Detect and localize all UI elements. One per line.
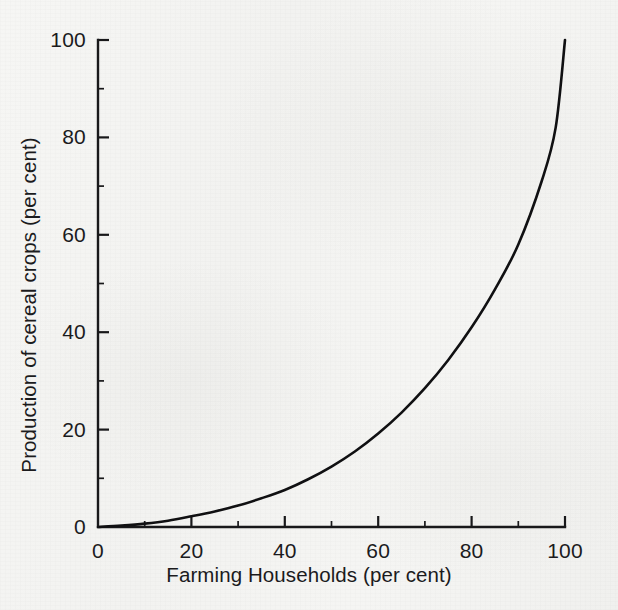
y-axis-title: Production of cereal crops (per cent) (14, 0, 44, 610)
y-axis-tick-label: 40 (62, 320, 86, 344)
x-axis-tick-label: 40 (273, 539, 297, 563)
y-axis-title-text: Production of cereal crops (per cent) (17, 137, 41, 472)
ticks-group (98, 89, 518, 527)
data-series-line-concentration-of-cereal-production (98, 40, 565, 527)
x-axis-tick-label: 100 (547, 539, 583, 563)
x-axis-tick-label: 20 (180, 539, 204, 563)
x-axis-title: Farming Households (per cent) (0, 563, 618, 587)
axes-group (98, 40, 565, 527)
y-axis-tick-label: 20 (62, 418, 86, 442)
plot-canvas (0, 0, 618, 610)
y-axis-tick-label: 100 (50, 28, 86, 52)
x-axis-tick-label: 80 (460, 539, 484, 563)
x-axis-tick-label: 0 (92, 539, 104, 563)
chart-figure: 020406080100 020406080100 Farming Househ… (0, 0, 618, 610)
x-axis-tick-label: 60 (366, 539, 390, 563)
y-axis-tick-label: 80 (62, 125, 86, 149)
y-axis-tick-label: 60 (62, 223, 86, 247)
y-axis-tick-label: 0 (74, 515, 86, 539)
axis-spines (98, 40, 565, 527)
